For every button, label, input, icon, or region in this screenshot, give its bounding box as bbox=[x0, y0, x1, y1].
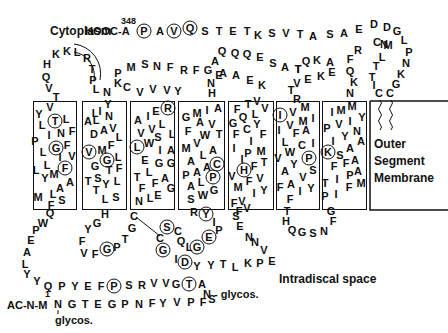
residue: M bbox=[181, 143, 190, 154]
residue: S bbox=[187, 194, 194, 205]
residue: Y bbox=[174, 86, 181, 97]
residue: R bbox=[138, 280, 146, 291]
residue: Y bbox=[33, 276, 40, 287]
residue: T bbox=[82, 299, 89, 310]
residue: G bbox=[210, 185, 219, 196]
residue: Y bbox=[102, 179, 109, 190]
residue: S bbox=[112, 192, 119, 203]
c-terminus-number: 348 bbox=[121, 17, 136, 26]
residue: A bbox=[156, 26, 164, 37]
residue: S bbox=[208, 294, 215, 305]
residue: N bbox=[57, 128, 65, 139]
residue: A bbox=[281, 166, 289, 177]
residue: I bbox=[47, 130, 50, 141]
residue: T bbox=[216, 129, 223, 140]
residue: A bbox=[100, 125, 108, 136]
residue: S bbox=[269, 58, 276, 69]
residue: R bbox=[354, 45, 362, 56]
residue: C bbox=[130, 211, 138, 222]
residue: P bbox=[187, 297, 194, 308]
residue: G bbox=[167, 158, 176, 169]
residue: H bbox=[101, 209, 109, 220]
residue: Y bbox=[290, 159, 297, 170]
residue: F bbox=[343, 158, 350, 169]
residue: V bbox=[136, 87, 143, 98]
residue: M bbox=[300, 102, 309, 113]
residue: R bbox=[180, 65, 188, 76]
residue: Y bbox=[84, 224, 91, 235]
residue-circled: G bbox=[156, 243, 171, 258]
residue: Q bbox=[288, 225, 297, 236]
residue: Y bbox=[71, 281, 78, 292]
residue: A bbox=[287, 179, 295, 190]
residue: G bbox=[128, 223, 137, 234]
residue: A bbox=[214, 103, 222, 114]
residue: A bbox=[167, 145, 175, 156]
residue: W bbox=[285, 147, 295, 158]
residue: M bbox=[49, 169, 58, 180]
residue-circled: D bbox=[178, 255, 193, 270]
residue: V bbox=[45, 83, 52, 94]
residue: E bbox=[141, 155, 148, 166]
outer-membrane-label-2: Segment bbox=[374, 154, 425, 168]
residue: P bbox=[89, 75, 96, 86]
residue: A bbox=[196, 117, 204, 128]
residue: T bbox=[106, 165, 113, 176]
residue: A bbox=[281, 62, 289, 73]
residue: T bbox=[216, 26, 223, 37]
residue: E bbox=[268, 256, 275, 267]
residue: K bbox=[244, 258, 252, 269]
residue: S bbox=[309, 228, 316, 239]
residue-circled: S bbox=[160, 220, 175, 235]
c-terminus-label: HOOC-A bbox=[85, 24, 130, 38]
residue: E bbox=[355, 24, 362, 35]
residue: P bbox=[321, 191, 328, 202]
residue: L bbox=[102, 194, 109, 205]
residue: P bbox=[31, 136, 38, 147]
residue: D bbox=[90, 129, 98, 140]
residue: A bbox=[302, 125, 310, 136]
residue: V bbox=[80, 248, 87, 259]
residue: G bbox=[91, 161, 100, 172]
residue: V bbox=[274, 153, 281, 164]
residue: F bbox=[233, 129, 240, 140]
residue: D bbox=[370, 19, 378, 30]
residue: F bbox=[346, 182, 353, 193]
residue: F bbox=[200, 297, 207, 308]
residue-circled: T bbox=[182, 277, 197, 292]
residue: L bbox=[232, 262, 239, 273]
residue: T bbox=[85, 176, 92, 187]
residue: L bbox=[114, 176, 121, 187]
residue: N bbox=[135, 299, 143, 310]
residue-circled: G bbox=[100, 242, 115, 257]
residue: F bbox=[149, 298, 156, 309]
residue: S bbox=[141, 59, 148, 70]
residue: E bbox=[229, 26, 236, 37]
residue: Y bbox=[104, 99, 111, 110]
residue: G bbox=[327, 206, 336, 217]
residue: V bbox=[256, 173, 263, 184]
residue: E bbox=[215, 70, 222, 81]
residue: V bbox=[162, 278, 169, 289]
residue: M bbox=[126, 62, 135, 73]
residue: L bbox=[200, 150, 207, 161]
residue: R bbox=[190, 207, 198, 218]
residue: H bbox=[208, 88, 216, 99]
residue: E bbox=[256, 52, 263, 63]
residue: G bbox=[93, 218, 102, 229]
residue: E bbox=[246, 75, 253, 86]
residue: V bbox=[193, 138, 200, 149]
residue: A bbox=[346, 143, 354, 154]
residue: L bbox=[159, 119, 166, 130]
residue: S bbox=[58, 195, 65, 206]
residue-circled: P bbox=[206, 170, 221, 185]
residue: Y bbox=[341, 131, 348, 142]
residue: M bbox=[347, 101, 356, 112]
residue: T bbox=[297, 29, 304, 40]
residue: G bbox=[155, 158, 164, 169]
residue: V bbox=[173, 297, 180, 308]
residue: I bbox=[335, 174, 338, 185]
residue: V bbox=[149, 84, 156, 95]
residue: K bbox=[52, 49, 60, 60]
residue: A bbox=[23, 247, 31, 258]
